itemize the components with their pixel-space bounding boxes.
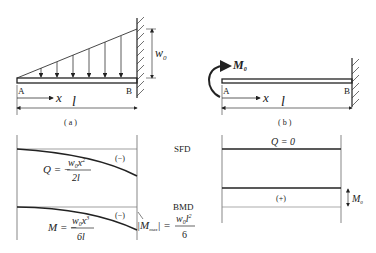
sfd-bmd-b: Q = 0 (+) M0 [222, 135, 363, 223]
beam-a [17, 78, 137, 83]
caption-a: ( a ) [64, 118, 77, 127]
figure-b: M0 A B x l ( b ) [209, 58, 359, 127]
point-b-label: B [126, 86, 132, 96]
point-a-label-b: A [223, 86, 230, 96]
load-arrows [41, 36, 121, 77]
bmd-a-eq-num: w0x3 [72, 215, 89, 227]
load-label: w0 [155, 46, 167, 62]
bmd-max-num: w0l2 [176, 213, 191, 225]
load-outline [17, 29, 137, 78]
bmd-a-eq-den: 6l [77, 231, 85, 242]
bmd-b-sign: (+) [276, 194, 286, 203]
bmd-a: (−) M = − w0x3 6l |Mmax| = w0l2 6 [17, 207, 195, 242]
wall-hatch-a [137, 17, 144, 96]
beam-diagram: w0 A B x l ( a ) M0 A B x l ( [0, 0, 376, 253]
wall-hatch-b [352, 59, 359, 106]
x-label-a: x [55, 90, 62, 105]
bmd-b-dim-label: M0 [351, 193, 363, 205]
bmd-title: BMD [173, 202, 194, 212]
sfd-a-eq-den: 2l [72, 172, 80, 183]
length-label-b: l [281, 94, 285, 109]
x-label-b: x [262, 90, 269, 105]
sfd-b-label: Q = 0 [271, 136, 295, 147]
length-label-a: l [72, 94, 76, 109]
bmd-max-den: 6 [182, 229, 187, 240]
beam-b [222, 79, 352, 83]
point-a-label: A [18, 86, 25, 96]
sfd-title: SFD [174, 144, 191, 154]
figure-a: w0 A B x l ( a ) [17, 17, 167, 127]
caption-b: ( b ) [278, 118, 292, 127]
sfd-a-eq-num: w0x2 [68, 157, 85, 169]
bmd-a-sign: (−) [115, 211, 125, 220]
sfd-a-sign: (−) [115, 154, 125, 163]
moment-label: M0 [232, 58, 247, 72]
bmd-max-lhs: |Mmax| = [137, 219, 171, 232]
point-b-label-b: B [344, 86, 350, 96]
